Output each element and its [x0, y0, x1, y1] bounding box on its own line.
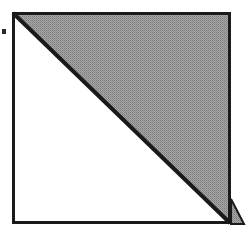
- left-margin-dot: [2, 29, 6, 34]
- geometry-figure: [0, 0, 251, 239]
- figure-canvas: Square divided by a diagonal with upper-…: [0, 0, 251, 239]
